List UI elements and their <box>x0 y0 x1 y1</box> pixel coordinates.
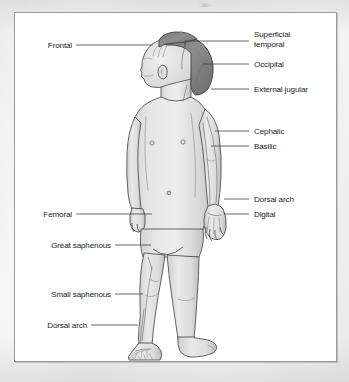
label-basilic: Basilic <box>254 142 276 151</box>
ear <box>158 65 167 79</box>
label-superficial-temporal-line1: Superficial <box>254 30 290 39</box>
nipple-right <box>181 140 185 144</box>
label-digital: Digital <box>254 210 276 219</box>
label-occipital: Occipital <box>254 60 284 69</box>
label-cephalic: Cephalic <box>254 127 284 136</box>
label-great-saphenous: Great saphenous <box>51 241 111 250</box>
label-femoral: Femoral <box>43 210 72 219</box>
page-scan-artifact <box>198 0 212 7</box>
label-frontal: Frontal <box>48 41 72 50</box>
foot-right <box>178 337 217 357</box>
labels-left-group: Frontal Femoral Great saphenous Small sa… <box>43 41 111 330</box>
figure-frame: Superficial temporal Occipital External … <box>14 12 337 362</box>
child-body-illustration <box>127 32 227 360</box>
nipple-left <box>150 141 154 145</box>
label-small-saphenous: Small saphenous <box>51 290 111 299</box>
label-dorsal-arch-foot: Dorsal arch <box>47 321 87 330</box>
label-superficial-temporal-line2: temporal <box>254 40 285 49</box>
navel <box>167 191 171 195</box>
pelvis <box>140 229 203 257</box>
label-dorsal-arch-hand: Dorsal arch <box>254 195 294 204</box>
vein-anatomy-figure: Superficial temporal Occipital External … <box>15 13 336 361</box>
labels-right-group: Superficial temporal Occipital External … <box>254 30 308 219</box>
label-external-jugular: External jugular <box>254 85 308 94</box>
leg-right <box>167 255 199 339</box>
